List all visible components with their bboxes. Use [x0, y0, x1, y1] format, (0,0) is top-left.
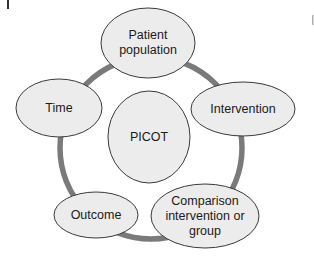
node-label-line: group — [189, 224, 221, 239]
node-patient-population: Patient population — [101, 20, 195, 66]
node-comparison: Comparison intervention or group — [151, 192, 259, 240]
node-label: Outcome — [71, 208, 122, 223]
node-intervention: Intervention — [191, 95, 295, 123]
node-label: Intervention — [210, 102, 275, 117]
node-label-line: Patient — [129, 28, 168, 43]
node-time: Time — [16, 94, 102, 122]
node-label-line: population — [119, 43, 177, 58]
node-outcome: Outcome — [54, 201, 138, 229]
node-label-line: intervention or — [165, 209, 244, 224]
edge-tick-mark — [312, 15, 314, 25]
node-label: Time — [45, 101, 72, 116]
center-label: PICOT — [130, 130, 168, 145]
corner-tick-mark — [7, 0, 9, 9]
node-label-line: Comparison — [171, 194, 238, 209]
node-picot-center: PICOT — [108, 123, 190, 151]
